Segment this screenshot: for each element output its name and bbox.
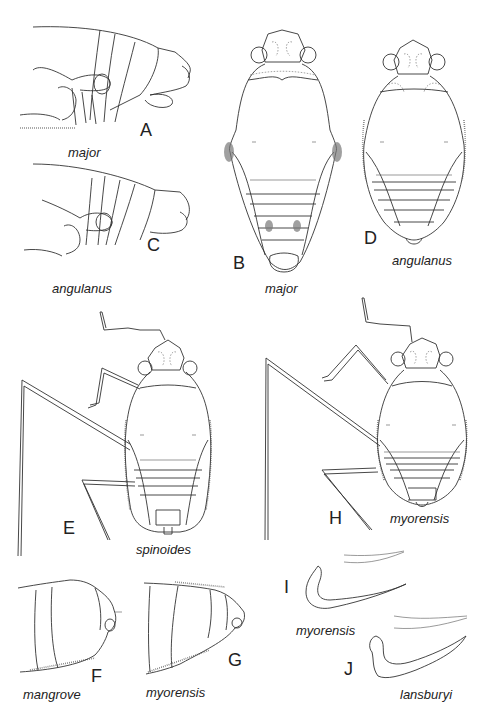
- panel-label-b: B: [233, 254, 245, 272]
- panel-label-g: G: [228, 651, 242, 669]
- figure-plate: A B C D E H F G I J major major angulanu…: [0, 0, 489, 714]
- species-label-a: major: [68, 146, 101, 159]
- panel-label-j: J: [344, 660, 353, 678]
- panel-f-drawing: [18, 580, 122, 672]
- species-label-h: myorensis: [390, 512, 449, 525]
- panel-h-drawing: [265, 298, 467, 540]
- panel-j-drawing: [370, 616, 467, 678]
- species-label-b: major: [265, 282, 298, 295]
- panel-label-h: H: [329, 509, 342, 527]
- panel-e-drawing: [18, 312, 211, 556]
- panel-a-drawing: [20, 27, 190, 128]
- species-label-d: angulanus: [392, 254, 452, 267]
- panel-c-drawing: [24, 164, 189, 256]
- panel-label-c: C: [147, 236, 160, 254]
- species-label-j: lansburyi: [400, 688, 452, 701]
- panel-label-e: E: [63, 519, 75, 537]
- species-label-i: myorensis: [296, 624, 355, 637]
- species-label-g: myorensis: [146, 686, 205, 699]
- panel-b-drawing: [224, 30, 342, 272]
- panel-d-drawing: [363, 40, 466, 244]
- panel-label-d: D: [364, 229, 377, 247]
- panel-label-a: A: [140, 121, 152, 139]
- panel-label-f: F: [91, 667, 102, 685]
- panel-i-drawing: [306, 551, 406, 608]
- species-label-c: angulanus: [52, 282, 112, 295]
- species-label-e: spinoides: [136, 543, 191, 556]
- species-label-f: mangrove: [23, 688, 81, 701]
- panel-label-i: I: [284, 578, 289, 596]
